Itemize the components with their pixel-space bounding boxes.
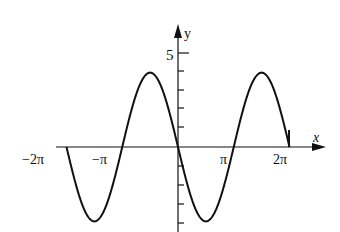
x-axis-label: x — [312, 130, 320, 145]
chart-svg: y x 5 −2π −π π 2π — [0, 0, 340, 232]
x-tick-pi: π — [220, 152, 227, 167]
y-axis-arrow-icon — [174, 24, 182, 38]
y-ticks — [178, 53, 189, 223]
x-tick-2pi: 2π — [273, 152, 287, 167]
chart: y x 5 −2π −π π 2π — [0, 0, 340, 232]
y-axis-label: y — [184, 26, 191, 41]
x-tick-negpi: −π — [92, 152, 107, 167]
y-tick-5: 5 — [166, 47, 174, 63]
x-tick-neg2pi: −2π — [22, 152, 44, 167]
